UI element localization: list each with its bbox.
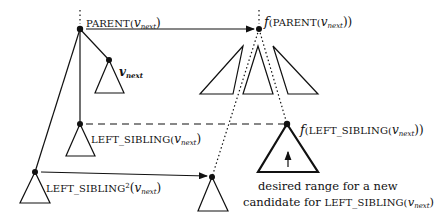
right-subtree-left-triangle xyxy=(200,46,243,94)
label-parent: PARENT(vnext) xyxy=(86,14,161,31)
caption-line2: candidate for LEFT_SIBLING(vnext) xyxy=(243,197,434,210)
right-subtree-middle-triangle xyxy=(243,46,273,94)
label-fparent: f(PARENT(vnext)) xyxy=(264,13,352,30)
node-leftsibling2 xyxy=(32,169,38,175)
arrow-leftsibling2-to-f xyxy=(41,172,207,176)
node-parent xyxy=(77,26,83,32)
tree-diagram: PARENT(vnext) vnext LEFT_SIBLING(vnext) … xyxy=(0,0,436,220)
node-fleftsibling xyxy=(284,121,290,127)
f-leftsibling2-triangle xyxy=(198,177,228,211)
label-leftsibling: LEFT_SIBLING(vnext) xyxy=(91,130,201,147)
label-leftsibling2: LEFT_SIBLING2(vnext) xyxy=(46,179,161,196)
label-fleftsibling: f(LEFT_SIBLING(vnext)) xyxy=(300,121,424,138)
node-leftsibling xyxy=(77,121,83,127)
node-fleftsibling2 xyxy=(209,174,215,180)
node-vnext xyxy=(106,57,112,63)
node-fparent xyxy=(256,26,262,32)
dotted-cone-left xyxy=(212,29,259,177)
edge-parent-leftsibling2 xyxy=(35,29,80,172)
caption-line1: desired range for a new xyxy=(258,181,398,193)
right-subtree-right-triangle xyxy=(273,46,318,94)
edge-parent-vnext xyxy=(80,29,109,60)
label-vnext: vnext xyxy=(119,63,143,79)
